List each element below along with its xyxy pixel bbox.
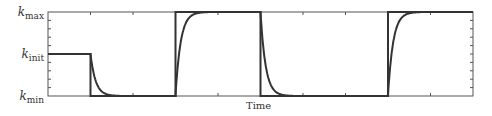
kmin-base: k (20, 89, 27, 103)
kmax-base: k (18, 5, 25, 19)
chart-plot (0, 0, 492, 116)
y-label-kmax: kmax (18, 6, 44, 21)
kinit-base: k (22, 47, 29, 61)
kmin-sub: min (27, 95, 44, 105)
y-label-kinit: kinit (22, 48, 44, 63)
kinit-sub: init (29, 53, 44, 63)
x-axis-label: Time (246, 100, 271, 111)
kmax-sub: max (25, 11, 44, 21)
y-label-kmin: kmin (20, 90, 45, 105)
